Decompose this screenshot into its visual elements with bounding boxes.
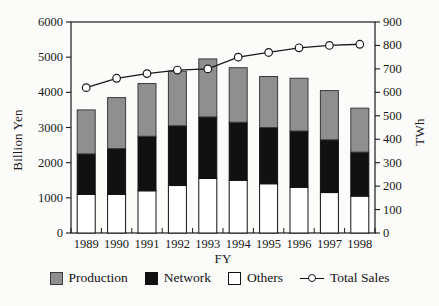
- bar-segment-network-1995: [260, 128, 278, 184]
- others-swatch-icon: [228, 272, 241, 285]
- bar-segment-production-1997: [320, 91, 338, 140]
- x-axis-year-label: 1989: [74, 237, 99, 251]
- x-axis-year-label: 1997: [317, 237, 342, 251]
- bar-segment-network-1993: [199, 117, 217, 179]
- total-sales-marker-icon: [300, 272, 324, 285]
- network-swatch-icon: [145, 272, 158, 285]
- x-axis-year-label: 1994: [226, 237, 252, 251]
- bar-segment-others-1992: [168, 186, 186, 233]
- legend-item-others: Others: [228, 270, 283, 286]
- chart-figure: 0100020003000400050006000010020030040050…: [0, 0, 439, 306]
- bar-segment-others-1998: [351, 196, 369, 233]
- x-axis-title: FY: [71, 251, 375, 267]
- bar-segment-others-1989: [77, 194, 95, 233]
- x-axis-year-label: 1992: [165, 237, 190, 251]
- total-sales-marker-1997: [326, 42, 334, 50]
- right-axis-tick-label: 900: [383, 15, 402, 29]
- x-axis-year-label: 1991: [135, 237, 160, 251]
- right-axis-tick-label: 800: [383, 38, 402, 52]
- bar-segment-others-1995: [260, 184, 278, 233]
- bar-segment-network-1998: [351, 152, 369, 196]
- bar-segment-production-1992: [168, 71, 186, 126]
- x-axis-year-label: 1996: [287, 237, 312, 251]
- left-axis-title: Billion Yen: [10, 100, 26, 180]
- left-axis-tick-label: 5000: [38, 50, 63, 64]
- total-sales-marker-1996: [295, 44, 303, 52]
- bar-segment-production-1989: [77, 110, 95, 154]
- left-axis-tick-label: 4000: [38, 85, 63, 99]
- bar-segment-others-1997: [320, 193, 338, 233]
- right-axis-tick-label: 500: [383, 109, 402, 123]
- total-sales-line: [86, 44, 360, 87]
- bar-segment-network-1990: [108, 149, 126, 195]
- x-axis-year-label: 1990: [104, 237, 129, 251]
- left-axis-tick-label: 0: [57, 226, 63, 240]
- total-sales-marker-1995: [265, 49, 273, 57]
- bar-segment-others-1991: [138, 191, 156, 233]
- bar-segment-network-1992: [168, 126, 186, 186]
- bar-segment-network-1989: [77, 154, 95, 194]
- x-axis-year-label: 1998: [347, 237, 372, 251]
- bar-segment-production-1990: [108, 98, 126, 149]
- right-axis-title: TWh: [412, 116, 428, 148]
- left-axis-tick-label: 1000: [38, 191, 63, 205]
- bar-segment-others-1990: [108, 194, 126, 233]
- right-axis-tick-label: 700: [383, 62, 402, 76]
- legend-item-total-sales: Total Sales: [300, 270, 389, 286]
- legend-label-production: Production: [69, 270, 128, 286]
- legend-item-production: Production: [50, 270, 128, 286]
- bar-segment-others-1994: [229, 180, 247, 233]
- bar-segment-others-1993: [199, 178, 217, 233]
- total-sales-marker-1992: [174, 66, 182, 74]
- right-axis-tick-label: 600: [383, 85, 402, 99]
- left-axis-tick-label: 2000: [38, 156, 63, 170]
- legend-label-total-sales: Total Sales: [330, 270, 389, 286]
- legend-item-network: Network: [145, 270, 211, 286]
- x-axis-year-label: 1995: [256, 237, 281, 251]
- bar-segment-production-1994: [229, 68, 247, 123]
- bar-segment-network-1994: [229, 122, 247, 180]
- production-swatch-icon: [50, 272, 63, 285]
- left-axis-tick-label: 6000: [38, 15, 63, 29]
- bar-segment-production-1995: [260, 77, 278, 128]
- bar-segment-network-1996: [290, 131, 308, 187]
- legend-label-others: Others: [247, 270, 283, 286]
- right-axis-tick-label: 100: [383, 203, 402, 217]
- total-sales-marker-1991: [143, 70, 151, 78]
- legend-label-network: Network: [164, 270, 211, 286]
- bar-segment-network-1997: [320, 140, 338, 193]
- right-axis-tick-label: 0: [383, 226, 389, 240]
- x-axis-year-label: 1993: [195, 237, 220, 251]
- total-sales-marker-1993: [204, 65, 212, 73]
- left-axis-tick-label: 3000: [38, 121, 63, 135]
- total-sales-marker-1994: [234, 53, 242, 61]
- total-sales-marker-1989: [82, 84, 90, 92]
- bar-segment-production-1998: [351, 108, 369, 152]
- right-axis-tick-label: 200: [383, 179, 402, 193]
- bar-segment-network-1991: [138, 136, 156, 191]
- legend: Production Network Others Total Sales: [0, 270, 439, 286]
- right-axis-tick-label: 400: [383, 132, 402, 146]
- bar-segment-production-1991: [138, 84, 156, 137]
- total-sales-marker-1998: [356, 40, 364, 48]
- bar-segment-others-1996: [290, 187, 308, 233]
- bar-segment-production-1996: [290, 78, 308, 131]
- right-axis-tick-label: 300: [383, 156, 402, 170]
- total-sales-marker-1990: [113, 74, 121, 82]
